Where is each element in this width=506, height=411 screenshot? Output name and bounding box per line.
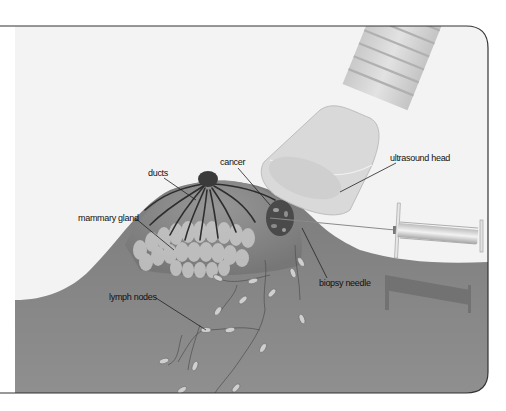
biopsy-illustration: ducts cancer ultrasound head mammary gla… xyxy=(0,0,506,411)
label-lymph-nodes: lymph nodes xyxy=(109,292,157,302)
illustration-canvas xyxy=(0,0,506,411)
label-cancer: cancer xyxy=(220,157,245,167)
label-ultrasound-head: ultrasound head xyxy=(390,153,450,163)
label-biopsy-needle: biopsy needle xyxy=(319,278,371,288)
nipple xyxy=(198,171,218,187)
label-mammary-gland: mammary gland xyxy=(78,213,139,223)
label-ducts: ducts xyxy=(148,168,168,178)
